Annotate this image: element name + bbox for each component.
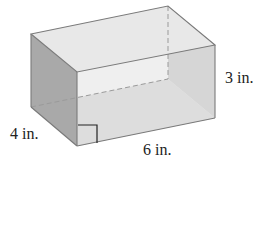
length-label: 6 in. [143, 142, 171, 158]
depth-label: 4 in. [10, 126, 38, 142]
height-label: 3 in. [225, 70, 253, 86]
